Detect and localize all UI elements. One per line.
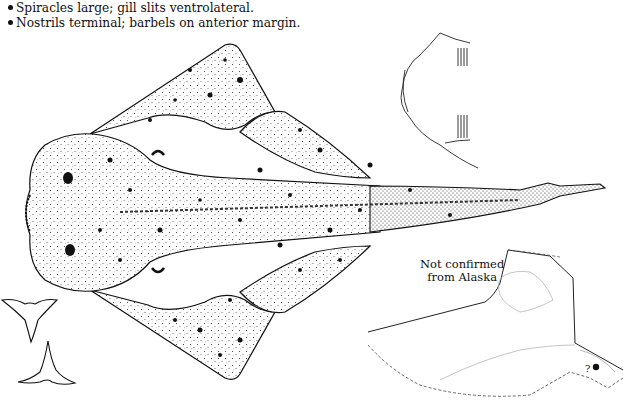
teeth-illustration (2, 300, 75, 385)
head-detail-illustration (401, 33, 478, 168)
map-annotation: Not confirmed from Alaska (420, 258, 504, 284)
uncertain-record-label: ? (585, 363, 590, 374)
record-marker-icon (593, 364, 599, 370)
angel-shark-illustration (26, 44, 605, 379)
illustration-canvas (0, 0, 623, 403)
